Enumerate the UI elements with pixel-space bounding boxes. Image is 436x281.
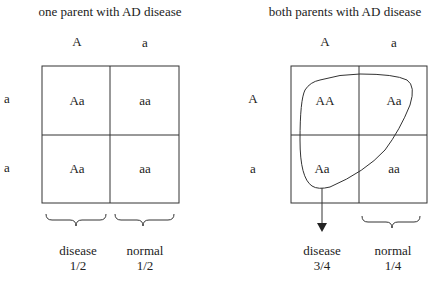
right-col-header-2: a <box>391 35 397 51</box>
right-cell-1-2: Aa <box>386 93 401 109</box>
disease-arrow-head <box>317 223 327 232</box>
left-cell-1-2: aa <box>139 93 151 109</box>
right-normal-label: normal 1/4 <box>375 243 412 273</box>
right-row-header-1: A <box>248 91 257 107</box>
left-cell-2-2: aa <box>139 161 151 177</box>
right-punnett-grid <box>291 66 427 203</box>
left-normal-brace <box>115 214 174 226</box>
right-cell-2-2: aa <box>388 161 400 177</box>
right-row-header-2: a <box>250 161 256 177</box>
left-col-header-2: a <box>142 35 148 51</box>
left-row-header-1: a <box>4 91 10 107</box>
left-title: one parent with AD disease <box>39 4 182 20</box>
left-row-header-2: a <box>4 160 10 176</box>
left-cell-1-1: Aa <box>69 93 84 109</box>
right-cell-2-1: Aa <box>314 161 329 177</box>
right-col-header-1: A <box>320 34 329 50</box>
left-disease-label: disease 1/2 <box>59 243 97 273</box>
left-disease-brace <box>46 214 106 226</box>
diagram-lines <box>0 0 436 281</box>
left-cell-2-1: Aa <box>69 161 84 177</box>
left-col-header-1: A <box>72 34 81 50</box>
right-cell-1-1: AA <box>316 93 335 109</box>
right-disease-label: disease 3/4 <box>303 243 341 273</box>
right-title: both parents with AD disease <box>269 4 421 20</box>
left-punnett-grid <box>42 66 179 203</box>
left-normal-label: normal 1/2 <box>127 243 164 273</box>
right-normal-brace <box>362 216 420 228</box>
